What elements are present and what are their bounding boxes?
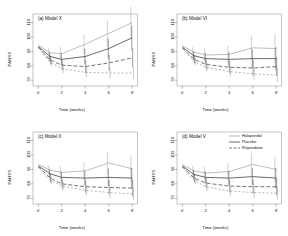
x-tick-label: 6 [251, 208, 254, 213]
y-tick-label: 80 [169, 180, 174, 185]
x-tick-label: 2 [204, 90, 207, 95]
y-tick-label: 80 [26, 62, 31, 67]
series-line-placebo [38, 38, 132, 60]
x-tick-label: 0 [181, 208, 184, 213]
y-tick-label: 100 [26, 32, 31, 40]
x-tick-label: 6 [108, 90, 111, 95]
series-line-haloperidol [38, 163, 132, 172]
series-line-risperidone [182, 167, 276, 187]
plot-area-b: 70809010011002468(b) Model VI [144, 0, 288, 118]
x-axis-label: Time (weeks) [144, 225, 288, 230]
panel-title: (d) Model V [182, 134, 207, 139]
series-line-risperidone-low [38, 48, 132, 73]
y-tick-label: 100 [169, 150, 174, 158]
series-line-placebo [182, 166, 276, 178]
x-tick-label: 0 [37, 208, 40, 213]
series-line-placebo [38, 166, 132, 178]
y-tick-label: 100 [26, 150, 31, 158]
figure-panel-grid: PANSS 70809010011002468(a) Model X Time … [0, 0, 287, 236]
x-tick-label: 0 [181, 90, 184, 95]
x-tick-label: 6 [251, 90, 254, 95]
y-tick-label: 80 [169, 62, 174, 67]
y-tick-label: 100 [169, 32, 174, 40]
x-tick-label: 6 [108, 208, 111, 213]
y-tick-label: 70 [169, 77, 174, 82]
x-tick-label: 4 [84, 208, 87, 213]
x-tick-label: 8 [275, 208, 278, 213]
y-tick-label: 90 [169, 48, 174, 53]
x-tick-label: 2 [61, 208, 64, 213]
x-axis-label: Time (weeks) [0, 107, 144, 112]
series-line-placebo [182, 47, 276, 59]
y-tick-label: 80 [26, 180, 31, 185]
plot-area-a: 70809010011002468(a) Model X [0, 0, 144, 118]
y-tick-label: 110 [169, 136, 174, 143]
x-tick-label: 8 [131, 208, 134, 213]
series-line-haloperidol [38, 23, 132, 54]
y-tick-label: 110 [26, 136, 31, 143]
plot-area-d: 70809010011002468(d) Model VHaloperidolP… [144, 118, 288, 236]
x-tick-label: 8 [275, 90, 278, 95]
y-tick-label: 90 [26, 166, 31, 171]
y-tick-label: 110 [26, 18, 31, 25]
panel-title: (c) Model II [38, 134, 61, 139]
y-tick-label: 70 [26, 77, 31, 82]
x-tick-label: 2 [61, 90, 64, 95]
chart-panel-c: PANSS 70809010011002468(c) Model II Time… [0, 118, 144, 236]
legend-label-placebo: Placebo [242, 139, 256, 144]
y-tick-label: 70 [26, 195, 31, 200]
legend-label-risperidone: Risperidone [242, 145, 263, 150]
x-tick-label: 0 [37, 90, 40, 95]
chart-panel-a: PANSS 70809010011002468(a) Model X Time … [0, 0, 144, 118]
y-tick-label: 90 [26, 48, 31, 53]
chart-panel-d: PANSS 70809010011002468(d) Model VHalope… [144, 118, 288, 236]
panel-title: (a) Model X [38, 16, 62, 21]
y-tick-label: 90 [169, 166, 174, 171]
series-line-risperidone [182, 48, 276, 68]
x-tick-label: 4 [228, 90, 231, 95]
chart-panel-b: PANSS 70809010011002468(b) Model VI Time… [144, 0, 288, 118]
x-tick-label: 8 [131, 90, 134, 95]
x-tick-label: 4 [84, 90, 87, 95]
x-tick-label: 2 [204, 208, 207, 213]
series-line-haloperidol [182, 46, 276, 55]
plot-area-c: 70809010011002468(c) Model II [0, 118, 144, 236]
series-line-risperidone-low [38, 167, 132, 194]
x-axis-label: Time (weeks) [0, 225, 144, 230]
x-tick-label: 4 [228, 208, 231, 213]
y-tick-label: 70 [169, 195, 174, 200]
panel-title: (b) Model VI [182, 16, 207, 21]
y-tick-label: 110 [169, 18, 174, 25]
x-axis-label: Time (weeks) [144, 107, 288, 112]
legend-label-haloperidol: Haloperidol [242, 133, 262, 138]
series-line-haloperidol [182, 164, 276, 173]
